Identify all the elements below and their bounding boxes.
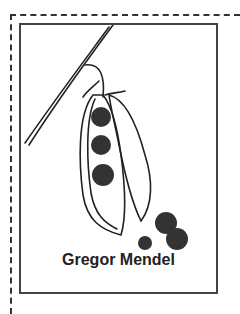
caption-text: Gregor Mendel — [21, 251, 216, 269]
card-frame: Gregor Mendel — [19, 23, 218, 294]
